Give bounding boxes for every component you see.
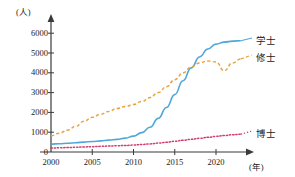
y-axis-tick-label: 2000	[21, 107, 48, 117]
series-label-博士: 博士	[256, 126, 276, 140]
y-axis-tick-label: 6000	[21, 28, 48, 38]
x-axis-tick-label: 2020	[203, 157, 229, 167]
x-axis-tick-label: 2000	[38, 157, 64, 167]
y-axis-tick-label: 3000	[21, 87, 48, 97]
series-leader-line-1	[241, 55, 252, 59]
series-label-修士: 修士	[256, 50, 276, 64]
axes-group	[40, 14, 254, 155]
series-line-1	[51, 59, 241, 136]
x-axis-tick-label: 2010	[121, 157, 147, 167]
y-axis-tick-label: 5000	[21, 48, 48, 58]
x-axis-arrow-icon	[246, 149, 254, 156]
y-axis-tick-label: 4000	[21, 67, 48, 77]
chart-figure: (人) (年) 0100020003000400050006000 200020…	[0, 0, 295, 177]
y-axis-tick-label: 1000	[21, 127, 48, 137]
series-line-0	[51, 41, 241, 144]
data-series-group	[51, 38, 252, 148]
series-label-学士: 学士	[256, 33, 276, 47]
y-axis-arrow-icon	[48, 14, 55, 22]
y-axis-tick-label: 0	[40, 147, 48, 157]
x-axis-tick-label: 2015	[162, 157, 188, 167]
series-leader-line-2	[241, 131, 252, 134]
series-leader-line-0	[241, 38, 252, 41]
series-line-2	[51, 134, 241, 148]
x-axis-tick-label: 2005	[79, 157, 105, 167]
